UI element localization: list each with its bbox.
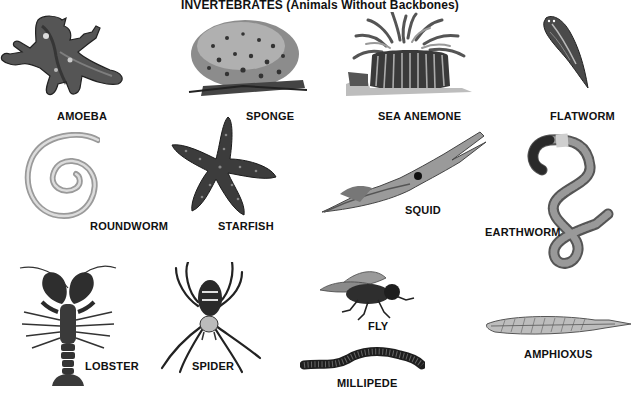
fly-illustration <box>318 262 418 324</box>
sea-anemone-illustration <box>346 12 476 97</box>
roundworm-illustration <box>20 132 100 222</box>
flatworm-label: FLATWORM <box>550 110 615 122</box>
sponge-illustration <box>183 16 313 96</box>
lobster-label: LOBSTER <box>85 360 139 372</box>
starfish-label: STARFISH <box>218 220 274 232</box>
starfish-illustration <box>170 115 280 220</box>
spider-label: SPIDER <box>192 360 234 372</box>
amphioxus-illustration <box>485 314 635 338</box>
amoeba-label: AMOEBA <box>57 110 107 122</box>
squid-illustration <box>320 128 488 216</box>
fly-label: FLY <box>368 320 388 332</box>
flatworm-illustration <box>538 14 598 94</box>
millipede-label: MILLIPEDE <box>337 377 397 389</box>
amphioxus-label: AMPHIOXUS <box>524 348 592 360</box>
earthworm-label: EARTHWORM <box>485 226 561 238</box>
sea-anemone-label: SEA ANEMONE <box>378 110 461 122</box>
millipede-illustration <box>300 345 425 375</box>
earthworm-illustration <box>520 132 620 272</box>
roundworm-label: ROUNDWORM <box>90 220 168 232</box>
amoeba-illustration <box>0 12 130 107</box>
squid-label: SQUID <box>405 204 441 216</box>
page-title: INVERTEBRATES (Animals Without Backbones… <box>0 0 640 12</box>
